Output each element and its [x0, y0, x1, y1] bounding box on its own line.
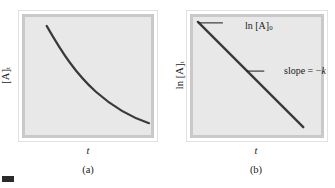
panel-b: ln [A]0 slope = −k ln [A]t t (b)	[167, 0, 335, 188]
annotation-slope: slope = −k	[284, 66, 326, 76]
annotation-intercept-sub: 0	[269, 24, 272, 31]
line-linear-decay	[193, 17, 321, 135]
y-axis-label-b-main: [A]	[174, 63, 185, 78]
plot-area-a	[25, 17, 151, 135]
plot-frame-b: ln [A]0 slope = −k	[186, 10, 328, 142]
y-axis-label-a: [A]t	[0, 51, 12, 99]
registration-mark	[2, 176, 14, 182]
x-axis-label-b: t	[186, 145, 326, 156]
annotation-slope-text: slope = −	[284, 65, 321, 76]
y-axis-label-b-sub: t	[178, 61, 186, 63]
caption-b: (b)	[186, 164, 326, 175]
annotation-intercept: ln [A]0	[245, 21, 273, 32]
annotation-intercept-text: ln [A]	[245, 20, 269, 31]
annotation-slope-symbol: k	[321, 65, 325, 76]
plot-area-b: ln [A]0 slope = −k	[193, 17, 321, 135]
curve-exponential-decay	[25, 17, 151, 135]
plot-frame-band-a	[22, 14, 154, 138]
y-axis-label-b-prefix: ln	[174, 78, 185, 89]
panel-a: [A]t t (a)	[0, 0, 167, 188]
y-axis-label-b: ln [A]t	[174, 48, 187, 102]
caption-a: (a)	[18, 164, 158, 175]
x-axis-label-a: t	[18, 145, 158, 156]
y-axis-label-a-sub: t	[4, 67, 12, 69]
figure-container: [A]t t (a) ln [A]0	[0, 0, 335, 188]
plot-frame-band-b: ln [A]0 slope = −k	[190, 14, 324, 138]
y-axis-label-a-main: [A]	[0, 69, 11, 84]
plot-frame-a	[18, 10, 158, 142]
